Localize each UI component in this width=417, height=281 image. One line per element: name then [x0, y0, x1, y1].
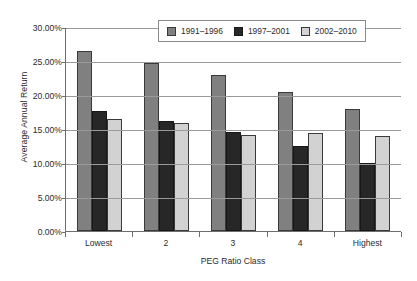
x-tick-label: 2 — [132, 238, 199, 249]
gridline — [66, 130, 401, 131]
bar — [375, 136, 390, 231]
legend-item: 1991–1996 — [167, 27, 223, 36]
y-axis-tick — [62, 130, 66, 131]
x-axis-tick — [401, 232, 402, 237]
gridline — [66, 62, 401, 63]
legend-label: 2002–2010 — [315, 27, 357, 35]
bar — [92, 111, 107, 231]
x-tick-label: Highest — [334, 238, 401, 249]
y-tick-label: 20.00% — [18, 92, 62, 101]
x-axis-tick — [132, 232, 133, 237]
bar — [159, 121, 174, 231]
y-tick-label: 15.00% — [18, 126, 62, 135]
gridline — [66, 198, 401, 199]
gridline — [66, 164, 401, 165]
x-tick-label: 3 — [199, 238, 266, 249]
legend-item: 1997–2001 — [234, 27, 290, 36]
x-axis-tick — [334, 232, 335, 237]
y-tick-label: 25.00% — [18, 58, 62, 67]
y-tick-label: 5.00% — [18, 194, 62, 203]
y-axis-tick — [62, 28, 66, 29]
x-axis-tick — [65, 232, 66, 237]
legend-label: 1991–1996 — [181, 27, 223, 35]
bar — [174, 123, 189, 231]
y-axis-tick-labels: 0.00%5.00%10.00%15.00%20.00%25.00%30.00% — [18, 0, 62, 281]
y-tick-label: 0.00% — [18, 228, 62, 237]
bar — [345, 109, 360, 231]
bar — [226, 132, 241, 231]
bar — [293, 146, 308, 231]
x-axis-title: PEG Ratio Class — [65, 256, 401, 266]
plot-area — [65, 28, 401, 232]
bar — [77, 51, 92, 231]
gridline — [66, 96, 401, 97]
x-tick-label: 4 — [267, 238, 334, 249]
bar — [107, 119, 122, 231]
bar — [360, 163, 375, 231]
bar — [144, 63, 159, 231]
legend-swatch-icon — [301, 27, 310, 36]
bar — [278, 92, 293, 231]
y-axis-tick — [62, 62, 66, 63]
legend-item: 2002–2010 — [301, 27, 357, 36]
y-axis-tick — [62, 96, 66, 97]
bar — [241, 135, 256, 231]
x-axis-tick — [199, 232, 200, 237]
y-axis-tick — [62, 164, 66, 165]
x-axis-tick-labels: Lowest234Highest — [65, 238, 401, 249]
x-axis-tick — [267, 232, 268, 237]
legend-label: 1997–2001 — [248, 27, 290, 35]
bar — [211, 75, 226, 231]
y-tick-label: 10.00% — [18, 160, 62, 169]
y-axis-tick — [62, 198, 66, 199]
legend-swatch-icon — [167, 27, 176, 36]
y-tick-label: 30.00% — [18, 24, 62, 33]
x-tick-label: Lowest — [65, 238, 132, 249]
bar — [308, 133, 323, 231]
chart-legend: 1991–19961997–20012002–2010 — [158, 20, 366, 42]
bar-chart: Average Annual Return 0.00%5.00%10.00%15… — [0, 0, 417, 281]
legend-swatch-icon — [234, 27, 243, 36]
